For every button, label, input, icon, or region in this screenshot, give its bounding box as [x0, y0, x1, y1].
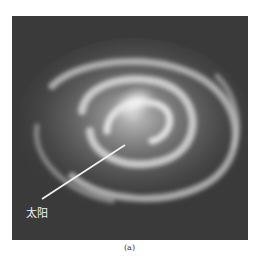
- galaxy-image: 太阳: [12, 16, 248, 240]
- figure-caption: (a): [0, 243, 259, 252]
- sun-label: 太阳: [26, 204, 48, 220]
